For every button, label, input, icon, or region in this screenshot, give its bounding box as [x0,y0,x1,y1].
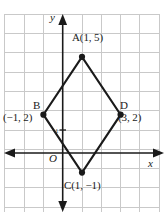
vertex-point-a [79,54,85,60]
coordinate-plane-figure: A(1, 5) B (−1, 2) D (3, 2) C(1, −1) O x … [0,0,168,221]
vertex-label-a: A(1, 5) [72,32,103,44]
y-axis-label: y [50,11,55,23]
y-axis-arrow-up [58,14,67,25]
x-axis-arrow-right [153,149,164,158]
x-axis-arrow-left [4,149,15,158]
vertex-label-c: C(1, −1) [64,180,101,192]
vertex-point-b [40,112,46,118]
origin-label: O [49,152,57,164]
vertex-label-b-name: B [33,100,40,112]
x-axis-label: x [148,157,153,169]
vertex-label-d-coords: (3, 2) [118,112,141,124]
vertex-label-b-coords: (−1, 2) [3,112,32,124]
unit-tick-label: 1 [55,127,59,135]
vertex-label-d-name: D [120,100,128,112]
y-axis-arrow-down [58,201,67,212]
vertex-point-c [79,170,85,176]
